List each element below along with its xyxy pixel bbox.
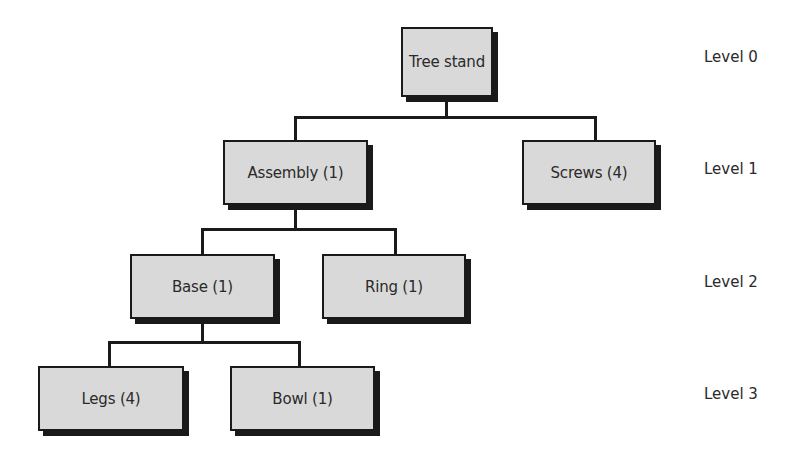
connector (294, 209, 297, 230)
connector (108, 341, 301, 344)
node-legs: Legs (4) (38, 366, 184, 431)
node-bowl: Bowl (1) (230, 366, 375, 431)
level-label-3: Level 3 (704, 385, 758, 403)
connector (108, 341, 111, 366)
node-ring: Ring (1) (322, 254, 466, 319)
node-tree-stand: Tree stand (401, 27, 493, 97)
connector (201, 228, 397, 231)
connector (394, 228, 397, 254)
connector (201, 323, 204, 343)
node-assembly: Assembly (1) (223, 140, 368, 205)
level-label-1: Level 1 (704, 160, 758, 178)
level-label-2: Level 2 (704, 273, 758, 291)
connector (201, 228, 204, 254)
connector (594, 116, 597, 140)
level-label-0: Level 0 (704, 48, 758, 66)
node-screws: Screws (4) (522, 140, 656, 205)
connector (294, 116, 597, 119)
connector (298, 341, 301, 366)
connector (294, 116, 297, 140)
node-base: Base (1) (130, 254, 275, 319)
connector (445, 96, 448, 118)
